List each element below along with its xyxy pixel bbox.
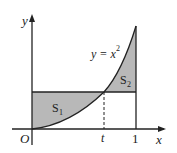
region-s2-subscript: 2 [127, 80, 131, 89]
region-s1-subscript: 1 [59, 108, 63, 117]
one-label: 1 [132, 131, 139, 146]
parabola-area-diagram: y x O t 1 y = x 2 S 1 S 2 [0, 0, 177, 153]
origin-label: O [20, 131, 30, 146]
region-s1-label: S [52, 101, 59, 115]
x-axis-label: x [155, 132, 162, 147]
region-s1 [32, 92, 104, 129]
curve-exponent: 2 [116, 44, 120, 53]
y-axis-label: y [20, 13, 28, 28]
curve-label: y = x [90, 47, 116, 61]
t-label: t [101, 131, 105, 145]
y-axis-arrow-icon [29, 14, 35, 22]
region-s2-label: S [120, 73, 127, 87]
